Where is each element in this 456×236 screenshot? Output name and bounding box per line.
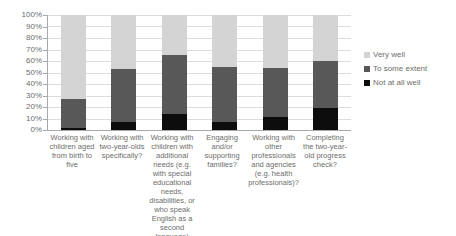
x-axis-category-label: Working with children aged from birth to… [47,133,97,169]
x-axis-category-label: Completing the two-year-old progress che… [300,133,350,169]
bar-segment [212,122,237,130]
bar-group [250,15,301,130]
bar-group [301,15,352,130]
y-axis-tick-label: 90% [26,23,42,31]
bar-segment [61,99,86,128]
y-axis-tick-label: 60% [26,57,42,65]
bar-segment [212,15,237,67]
y-axis-tick-label: 80% [26,34,42,42]
bar-segment [61,15,86,99]
bar-stack [313,15,338,130]
y-axis-tick-label: 50% [26,69,42,77]
bar-group [99,15,150,130]
y-axis-tick-label: 0% [30,126,42,134]
bar-group [48,15,99,130]
bar-group [149,15,200,130]
bar-stack [212,15,237,130]
y-axis-tick-label: 20% [26,103,42,111]
y-axis-tick-label: 100% [22,11,42,19]
x-axis-category-label: Engaging and/or supporting families? [197,133,247,169]
legend-swatch-icon [364,52,370,58]
x-axis-category-label: Working with two-year-olds specifically? [97,133,147,160]
legend-label: Not at all well [373,78,421,87]
legend-label: To some extent [373,64,427,73]
stacked-bar-chart: 100%90%80%70%60%50%40%30%20%10%0% Workin… [0,0,456,236]
legend-item: Not at all well [364,78,456,87]
legend-item: To some extent [364,64,456,73]
bar-segment [212,67,237,122]
bar-segment [111,69,136,122]
bar-stack [111,15,136,130]
bar-stack [162,15,187,130]
bar-segment [313,108,338,130]
x-axis: Working with children aged from birth to… [47,133,350,236]
bar-segment [111,122,136,130]
x-axis-category-label: Working with other professionals and age… [247,133,300,187]
bar-group [200,15,251,130]
bar-segment [111,15,136,69]
y-axis-tick-label: 70% [26,46,42,54]
y-axis-tick-label: 10% [26,115,42,123]
bar-stack [61,15,86,130]
bar-segment [162,55,187,114]
bar-segment [263,68,288,117]
y-axis: 100%90%80%70%60%50%40%30%20%10%0% [0,11,47,135]
bars-layer [48,15,351,130]
legend-swatch-icon [364,80,370,86]
y-axis-tick-label: 30% [26,92,42,100]
bar-stack [263,15,288,130]
bar-segment [162,114,187,130]
legend-label: Very well [373,50,405,59]
legend-item: Very well [364,50,456,59]
bar-segment [61,128,86,130]
x-axis-category-label: Working with children with additional ne… [147,133,197,236]
y-axis-tick-label: 40% [26,80,42,88]
legend-swatch-icon [364,66,370,72]
chart-legend: Very wellTo some extentNot at all well [364,50,456,92]
bar-segment [313,61,338,108]
bar-segment [313,15,338,61]
bar-segment [263,117,288,130]
plot-area [47,15,351,131]
bar-segment [162,15,187,55]
bar-segment [263,15,288,68]
